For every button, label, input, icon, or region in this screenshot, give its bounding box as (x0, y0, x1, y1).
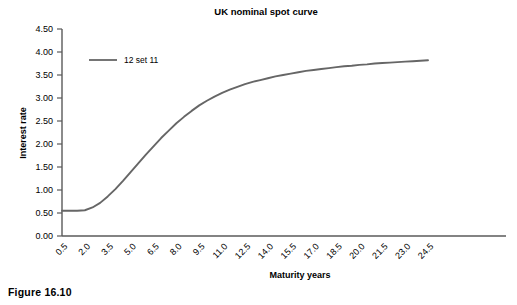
y-axis: 0.000.501.001.502.002.503.003.504.004.50 (35, 24, 62, 241)
data-series-group (62, 60, 428, 210)
x-tick-label: 0.5 (53, 241, 69, 257)
y-tick-label: 1.00 (35, 185, 53, 195)
y-tick-label: 3.00 (35, 93, 53, 103)
y-tick-label: 4.00 (35, 47, 53, 57)
legend-label: 12 set 11 (124, 55, 159, 65)
y-tick-label: 4.50 (35, 24, 53, 34)
figure-caption: Figure 16.10 (8, 286, 72, 298)
y-axis-title: Interest rate (18, 107, 28, 159)
y-tick-label: 2.00 (35, 139, 53, 149)
x-tick-label: 15.5 (279, 241, 298, 260)
x-tick-label: 21.5 (370, 241, 389, 260)
x-tick-label: 2.0 (76, 241, 92, 257)
y-tick-label: 2.50 (35, 116, 53, 126)
x-axis: 0.52.03.55.06.58.09.511.012.514.015.517.… (53, 241, 435, 260)
x-tick-label: 18.5 (324, 241, 343, 260)
x-tick-label: 9.5 (191, 241, 207, 257)
x-tick-label: 8.0 (168, 241, 184, 257)
y-tick-label: 0.50 (35, 208, 53, 218)
chart-legend: 12 set 11 (89, 55, 159, 65)
x-tick-label: 5.0 (122, 241, 138, 257)
figure-container: UK nominal spot curve Interest rate Matu… (0, 0, 517, 305)
y-tick-label: 1.50 (35, 162, 53, 172)
x-tick-label: 20.0 (347, 241, 366, 260)
x-axis-title: Maturity years (269, 270, 330, 280)
x-tick-label: 12.5 (233, 241, 252, 260)
y-tick-label: 0.00 (35, 231, 53, 241)
y-tick-label: 3.50 (35, 70, 53, 80)
chart-title: UK nominal spot curve (214, 6, 317, 17)
series-line (62, 60, 428, 210)
x-tick-label: 17.0 (302, 241, 321, 260)
x-tick-label: 23.0 (393, 241, 412, 260)
x-tick-label: 24.5 (416, 241, 435, 260)
x-tick-label: 6.5 (145, 241, 161, 257)
x-tick-label: 11.0 (211, 241, 230, 260)
line-chart: UK nominal spot curve Interest rate Matu… (0, 0, 517, 285)
chart-area: UK nominal spot curve Interest rate Matu… (0, 0, 517, 285)
x-tick-label: 14.0 (256, 241, 275, 260)
x-tick-label: 3.5 (99, 241, 115, 257)
